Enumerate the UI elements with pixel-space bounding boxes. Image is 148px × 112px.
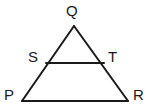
vertex-label-t: T xyxy=(108,49,117,64)
vertex-label-q: Q xyxy=(66,3,78,18)
vertex-label-r: R xyxy=(133,87,144,102)
geometry-figure: Q S T P R xyxy=(0,0,148,112)
vertex-label-p: P xyxy=(4,87,14,102)
vertex-label-s: S xyxy=(28,49,38,64)
